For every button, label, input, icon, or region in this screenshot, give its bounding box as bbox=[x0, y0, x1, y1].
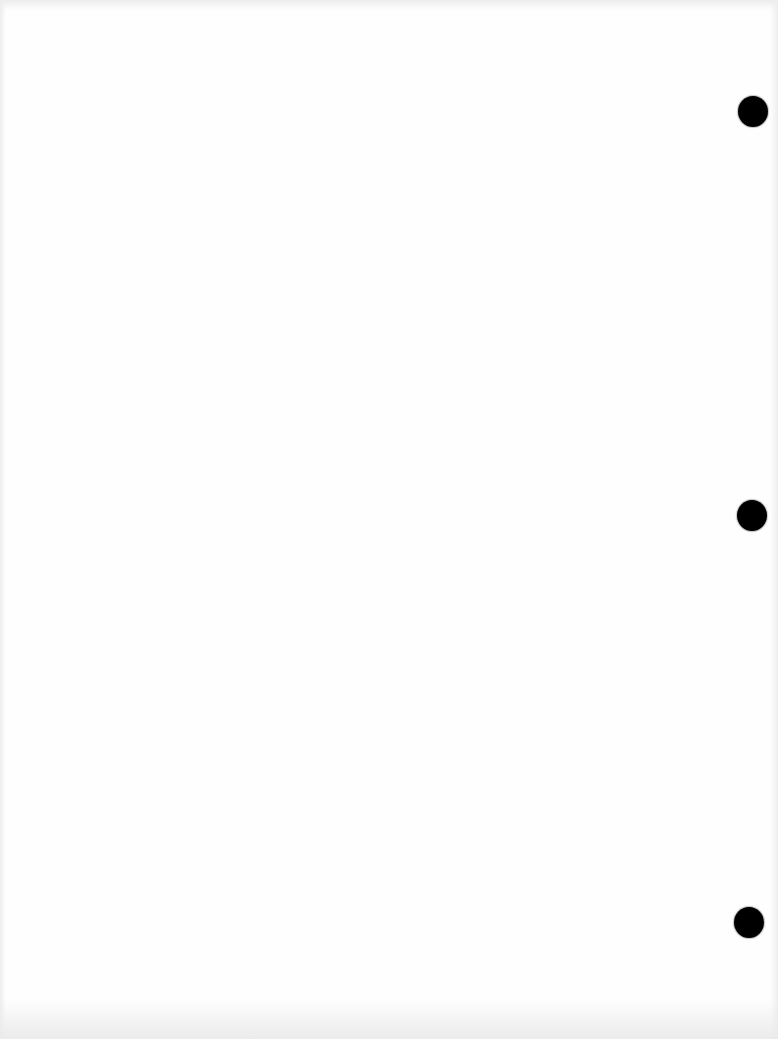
punch-hole-middle bbox=[737, 500, 767, 531]
page-left-edge-shadow bbox=[0, 0, 6, 1039]
page-top-edge-shadow bbox=[0, 0, 778, 10]
punch-hole-top bbox=[738, 96, 768, 127]
page-bottom-edge-shadow bbox=[0, 999, 778, 1039]
punch-hole-bottom bbox=[734, 907, 764, 938]
scanned-page bbox=[0, 0, 778, 1039]
page-right-edge-shadow bbox=[770, 0, 778, 1039]
